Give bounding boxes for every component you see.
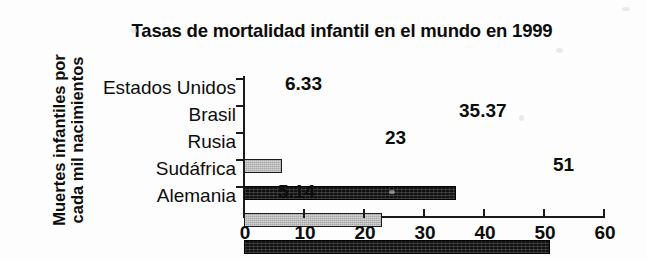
bar-value-sudafrica: 51 xyxy=(553,158,574,172)
bar-brasil xyxy=(244,186,456,200)
category-tick-1 xyxy=(236,105,244,107)
scan-speck xyxy=(622,7,630,11)
bar-value-alemania: 5.14 xyxy=(278,185,315,199)
x-tick-label-20: 20 xyxy=(335,222,395,244)
bar-value-estados-unidos: 6.33 xyxy=(285,77,322,91)
bar-value-brasil: 35.37 xyxy=(459,104,507,118)
x-tick-50 xyxy=(543,209,545,218)
category-label-alemania: Alemania xyxy=(0,185,236,207)
chart-title: Tasas de mortalidad infantil en el mundo… xyxy=(82,20,602,42)
scan-speck xyxy=(389,190,395,194)
x-tick-label-60: 60 xyxy=(575,222,635,244)
category-tick-3 xyxy=(236,159,244,161)
x-tick-label-30: 30 xyxy=(395,222,455,244)
x-tick-label-50: 50 xyxy=(515,222,575,244)
x-tick-label-10: 10 xyxy=(275,222,335,244)
bar-value-rusia: 23 xyxy=(385,131,406,145)
chart-page: Tasas de mortalidad infantil en el mundo… xyxy=(0,0,647,261)
category-label-rusia: Rusia xyxy=(0,131,236,153)
x-tick-label-0: 0 xyxy=(215,222,275,244)
category-label-sudafrica: Sudáfrica xyxy=(0,158,236,180)
bar-estados-unidos xyxy=(244,159,282,173)
category-label-estados-unidos: Estados Unidos xyxy=(0,77,236,99)
x-tick-0 xyxy=(243,209,245,218)
scan-speck xyxy=(131,28,137,33)
scan-speck xyxy=(519,115,524,121)
category-label-brasil: Brasil xyxy=(0,104,236,126)
category-tick-0 xyxy=(236,78,244,80)
x-tick-30 xyxy=(423,209,425,218)
x-tick-20 xyxy=(363,209,365,218)
plot-area: 6.33 35.37 23 51 5.14 0 10 20 30 40 50 6… xyxy=(244,76,604,216)
category-tick-4 xyxy=(236,186,244,188)
x-tick-40 xyxy=(483,209,485,218)
category-tick-2 xyxy=(236,132,244,134)
x-tick-60 xyxy=(603,209,605,218)
x-tick-10 xyxy=(303,209,305,218)
scan-speck xyxy=(556,48,563,53)
x-tick-label-40: 40 xyxy=(455,222,515,244)
